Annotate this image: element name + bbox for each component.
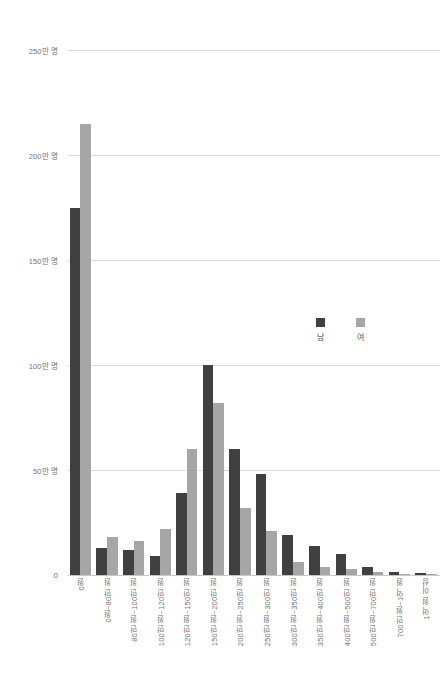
x-axis-tick: 1억 원 이상 (421, 578, 432, 620)
bar-female (266, 531, 277, 575)
bar-group (148, 50, 175, 575)
bar-male (415, 573, 426, 575)
y-axis-tick: 0 (54, 571, 58, 580)
bar-female (107, 537, 118, 575)
bar-female (320, 567, 331, 575)
x-axis-tick: 400만 원~500만 원 (342, 578, 353, 646)
y-axis-labels: 250만 명200만 명150만 명100만 명50만 명0 (0, 0, 62, 684)
x-axis-tick: 300만 원~350만 원 (289, 578, 300, 646)
bar-male (256, 474, 267, 575)
bar-female (426, 574, 437, 575)
bar-female (399, 574, 410, 575)
bar-female (293, 562, 304, 575)
legend-label: 남 (300, 333, 340, 343)
bar-group (387, 50, 414, 575)
bar-group (68, 50, 95, 575)
bar-male (150, 556, 161, 575)
x-axis-tick: 80만 원~100만 원 (129, 578, 140, 642)
bar-male (389, 572, 400, 575)
y-axis-tick: 100만 명 (29, 360, 58, 371)
x-axis-tick: 0원~80만 원 (103, 578, 114, 623)
bar-group (334, 50, 361, 575)
x-axis-tick: 120만 원~150만 원 (182, 578, 193, 646)
y-axis-tick: 150만 명 (29, 255, 58, 266)
bar-female (187, 449, 198, 575)
bar-male (123, 550, 134, 575)
bar-female (373, 572, 384, 575)
x-axis-tick: 250만 원~300만 원 (262, 578, 273, 646)
legend-swatch-icon (316, 318, 325, 327)
bar-group (254, 50, 281, 575)
chart-legend: 남여 (300, 318, 410, 360)
bar-female (346, 569, 357, 575)
bar-group (413, 50, 440, 575)
bar-female (160, 529, 171, 575)
x-axis-tick: 700만 원~1억 원 (395, 578, 406, 637)
bar-male (309, 546, 320, 575)
bar-female (80, 124, 91, 576)
y-axis-tick: 50만 명 (33, 465, 58, 476)
x-axis-tick: 500만 원~700만 원 (368, 578, 379, 646)
x-axis-tick: 350만 원~400만 원 (315, 578, 326, 646)
bar-male (70, 208, 81, 576)
bar-male (176, 493, 187, 575)
bar-female (213, 403, 224, 575)
bar-group (307, 50, 334, 575)
bar-chart: 250만 명200만 명150만 명100만 명50만 명0 0원0원~80만 … (0, 0, 447, 684)
bar-male (282, 535, 293, 575)
bar-group (95, 50, 122, 575)
bar-female (134, 541, 145, 575)
axis-baseline (68, 575, 440, 576)
bar-groups (68, 50, 440, 575)
bar-male (229, 449, 240, 575)
x-axis-labels: 0원0원~80만 원80만 원~100만 원100만 원~120만 원120만 … (68, 578, 440, 684)
bar-group (227, 50, 254, 575)
y-axis-tick: 200만 명 (29, 150, 58, 161)
bar-group (281, 50, 308, 575)
legend-label: 여 (340, 333, 380, 343)
x-axis-tick: 200만 원~250만 원 (235, 578, 246, 646)
bar-female (240, 508, 251, 575)
bar-male (362, 567, 373, 575)
bar-male (336, 554, 347, 575)
bar-male (203, 365, 214, 575)
legend-item[interactable]: 여 (340, 318, 380, 343)
y-axis-tick: 250만 명 (29, 45, 58, 56)
bar-group (174, 50, 201, 575)
bar-group (121, 50, 148, 575)
bar-group (201, 50, 228, 575)
x-axis-tick: 150만 원~200만 원 (209, 578, 220, 646)
legend-swatch-icon (356, 318, 365, 327)
legend-item[interactable]: 남 (300, 318, 340, 343)
bar-male (96, 548, 107, 575)
bar-group (360, 50, 387, 575)
x-axis-tick: 100만 원~120만 원 (156, 578, 167, 646)
x-axis-tick: 0원 (76, 578, 87, 591)
